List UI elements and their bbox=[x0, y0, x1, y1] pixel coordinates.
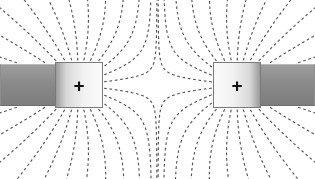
electric-field-diagram: + + bbox=[0, 0, 315, 179]
left-lead-bar bbox=[0, 64, 56, 106]
left-charge-sign: + bbox=[56, 63, 102, 107]
right-lead-bar bbox=[260, 64, 315, 106]
right-charge-sign: + bbox=[214, 63, 260, 107]
left-charge-block: + bbox=[55, 62, 103, 108]
right-charge-block: + bbox=[213, 62, 261, 108]
